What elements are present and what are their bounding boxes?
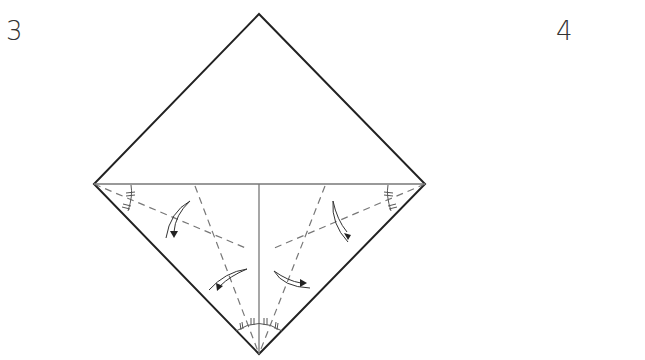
angle-mark-right	[384, 185, 397, 211]
fold-arrow-lower-left	[209, 269, 247, 291]
fold-arrow-lower-right	[274, 271, 310, 288]
origami-diagram	[0, 0, 645, 360]
fold-arrow-upper-left	[166, 201, 190, 238]
fold-arrow-upper-right	[333, 201, 351, 242]
